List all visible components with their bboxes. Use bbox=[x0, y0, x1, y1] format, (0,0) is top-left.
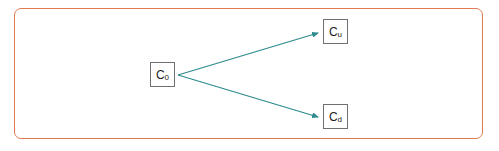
node-cd-subscript: d bbox=[338, 115, 342, 124]
node-cu: Cu bbox=[323, 19, 348, 44]
node-cu-label: C bbox=[329, 25, 338, 39]
arrow-c0-to-cd bbox=[178, 75, 318, 117]
arrows-layer bbox=[0, 0, 499, 151]
node-cd-label: C bbox=[329, 110, 338, 124]
node-cu-subscript: u bbox=[338, 30, 342, 39]
node-c0: C0 bbox=[150, 62, 175, 87]
arrow-c0-to-cu bbox=[178, 33, 318, 75]
node-c0-subscript: 0 bbox=[165, 73, 169, 82]
node-cd: Cd bbox=[323, 104, 348, 129]
node-c0-label: C bbox=[156, 68, 165, 82]
